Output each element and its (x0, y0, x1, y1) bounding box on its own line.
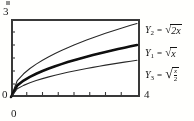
legend-radical-y2: √ 2x (165, 24, 182, 36)
legend-equals-y1: = (157, 48, 162, 58)
legend-equals-y3: = (157, 70, 162, 80)
fraction-x-over-2: x 2 (173, 68, 179, 83)
legend-equals-y2: = (157, 25, 162, 35)
legend-variable-y2: Y2 (145, 24, 154, 37)
figure-container: 3 0 0 4 Y2 = √ 2x Y1 = √ x Y3 = (0, 0, 194, 121)
curve-series-group (11, 23, 137, 97)
x-axis-ticks (27, 92, 122, 96)
y-axis-min-label: 0 (2, 89, 7, 100)
legend-entry-y3: Y3 = √ x 2 (145, 64, 179, 86)
legend-radical-y1: √ x (165, 47, 177, 59)
y-axis-max-label: 3 (3, 6, 8, 17)
legend-radicand-y1: x (170, 47, 176, 59)
legend-variable-y3: Y3 (145, 69, 154, 82)
legend-radicand-y2: 2x (170, 24, 181, 36)
curve-y3 (11, 60, 137, 97)
y-axis-ticks (11, 32, 15, 84)
plot-area (11, 19, 140, 97)
x-axis-min-label: 0 (11, 108, 16, 119)
legend: Y2 = √ 2x Y1 = √ x Y3 = √ x 2 (145, 17, 194, 91)
legend-entry-y2: Y2 = √ 2x (145, 19, 182, 41)
legend-radicand-y3: x 2 (172, 67, 180, 83)
legend-radical-y3: √ x 2 (165, 67, 179, 83)
legend-variable-y1: Y1 (145, 47, 154, 60)
legend-entry-y1: Y1 = √ x (145, 42, 177, 64)
